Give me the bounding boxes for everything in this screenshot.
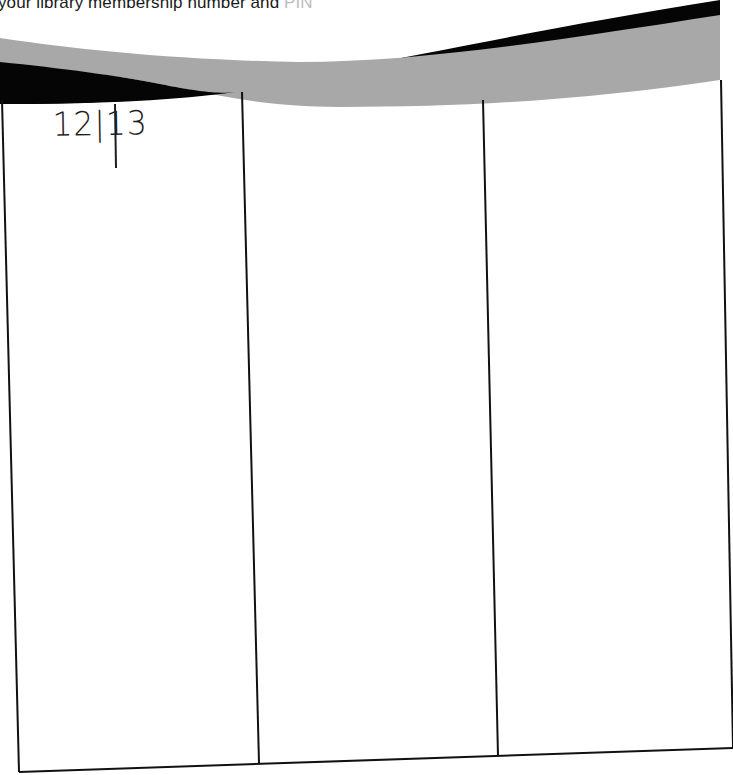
table-grid — [2, 80, 733, 772]
table-left-border — [2, 100, 19, 772]
column-divider-2 — [483, 100, 498, 756]
handwritten-cell-value: 12|13 — [52, 103, 148, 144]
table-bottom-border — [19, 748, 733, 772]
table-right-border — [721, 80, 733, 748]
column-divider-1 — [242, 92, 259, 763]
